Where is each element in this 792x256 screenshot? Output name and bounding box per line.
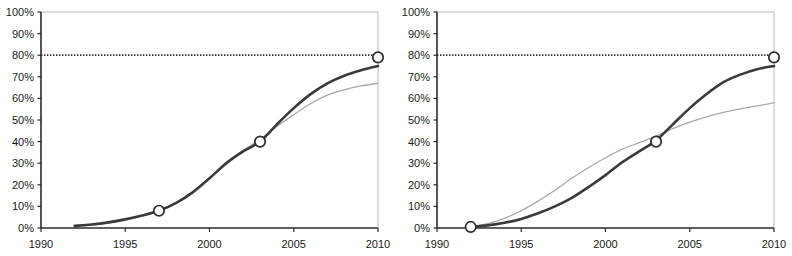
- chart-svg-right: 0%10%20%30%40%50%60%70%80%90%100%1990199…: [396, 0, 792, 256]
- y-tick-label: 20%: [408, 179, 430, 191]
- chart-panel-left: 0%10%20%30%40%50%60%70%80%90%100%1990199…: [0, 0, 396, 256]
- chart-svg-left: 0%10%20%30%40%50%60%70%80%90%100%1990199…: [0, 0, 396, 256]
- axes: [437, 12, 774, 228]
- x-tick-label: 2005: [678, 238, 702, 250]
- x-tick-label: 1990: [425, 238, 449, 250]
- y-tick-label: 10%: [408, 200, 430, 212]
- plot-frame: [437, 12, 774, 228]
- y-tick-label: 40%: [408, 136, 430, 148]
- y-tick-label: 90%: [12, 28, 34, 40]
- x-tick-label: 1995: [509, 238, 533, 250]
- data-point-marker[interactable]: [466, 222, 476, 232]
- data-point-marker[interactable]: [769, 52, 779, 62]
- plot-frame: [41, 12, 378, 228]
- y-axis-ticks: 0%10%20%30%40%50%60%70%80%90%100%: [402, 6, 437, 234]
- y-tick-label: 80%: [408, 49, 430, 61]
- y-tick-label: 60%: [408, 92, 430, 104]
- x-axis-ticks: 19901995200020052010: [29, 228, 390, 250]
- y-tick-label: 60%: [12, 92, 34, 104]
- chart-panel-right: 0%10%20%30%40%50%60%70%80%90%100%1990199…: [396, 0, 792, 256]
- series-line-light-curve: [75, 83, 378, 226]
- y-tick-label: 0%: [414, 222, 430, 234]
- dual-s-curve-figure: 0%10%20%30%40%50%60%70%80%90%100%1990199…: [0, 0, 792, 256]
- y-axis-ticks: 0%10%20%30%40%50%60%70%80%90%100%: [6, 6, 41, 234]
- series-line-light-curve: [471, 103, 774, 227]
- y-tick-label: 30%: [408, 157, 430, 169]
- y-tick-label: 10%: [12, 200, 34, 212]
- x-tick-label: 2000: [593, 238, 617, 250]
- data-point-marker[interactable]: [651, 136, 661, 146]
- x-tick-label: 1995: [113, 238, 137, 250]
- y-tick-label: 30%: [12, 157, 34, 169]
- x-tick-label: 2000: [197, 238, 221, 250]
- x-tick-label: 2005: [282, 238, 306, 250]
- y-tick-label: 100%: [402, 6, 430, 18]
- y-tick-label: 20%: [12, 179, 34, 191]
- y-tick-label: 70%: [12, 71, 34, 83]
- axes: [41, 12, 378, 228]
- series-line-dark-curve: [75, 66, 378, 226]
- data-point-marker[interactable]: [373, 52, 383, 62]
- y-tick-label: 50%: [12, 114, 34, 126]
- y-tick-label: 50%: [408, 114, 430, 126]
- data-point-marker[interactable]: [154, 206, 164, 216]
- y-tick-label: 40%: [12, 136, 34, 148]
- x-tick-label: 2010: [762, 238, 786, 250]
- y-tick-label: 90%: [408, 28, 430, 40]
- y-tick-label: 80%: [12, 49, 34, 61]
- x-axis-ticks: 19901995200020052010: [425, 228, 786, 250]
- y-tick-label: 100%: [6, 6, 34, 18]
- data-point-marker[interactable]: [255, 136, 265, 146]
- y-tick-label: 70%: [408, 71, 430, 83]
- series-line-dark-curve: [471, 66, 774, 227]
- y-tick-label: 0%: [18, 222, 34, 234]
- x-tick-label: 2010: [366, 238, 390, 250]
- x-tick-label: 1990: [29, 238, 53, 250]
